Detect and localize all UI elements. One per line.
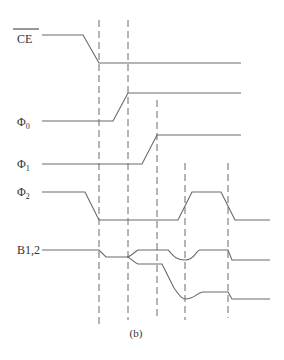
waveform-phi1	[42, 135, 241, 164]
signal-phi2: Φ2	[17, 185, 270, 220]
signal-phi0: Φ0	[17, 93, 241, 131]
signal-label-ce: CE	[17, 32, 32, 46]
waveform-phi0	[42, 93, 241, 121]
timing-diagram: CE Φ0 Φ1 Φ2 B1,2 (b)	[0, 0, 284, 360]
waveform-phi2	[42, 192, 270, 220]
signal-ce: CE	[13, 29, 241, 63]
figure-caption: (b)	[130, 327, 143, 340]
waveform-b12-upper	[42, 250, 270, 260]
waveform-ce	[42, 35, 241, 63]
signal-label-phi1: Φ1	[17, 157, 30, 173]
waveform-b12-lower	[127, 257, 270, 299]
signal-label-phi2: Φ2	[17, 185, 30, 201]
signal-label-phi0: Φ0	[17, 115, 30, 131]
signal-b12: B1,2	[17, 243, 270, 299]
signal-label-b12: B1,2	[17, 243, 40, 257]
signal-phi1: Φ1	[17, 135, 241, 173]
timing-markers	[99, 20, 228, 325]
